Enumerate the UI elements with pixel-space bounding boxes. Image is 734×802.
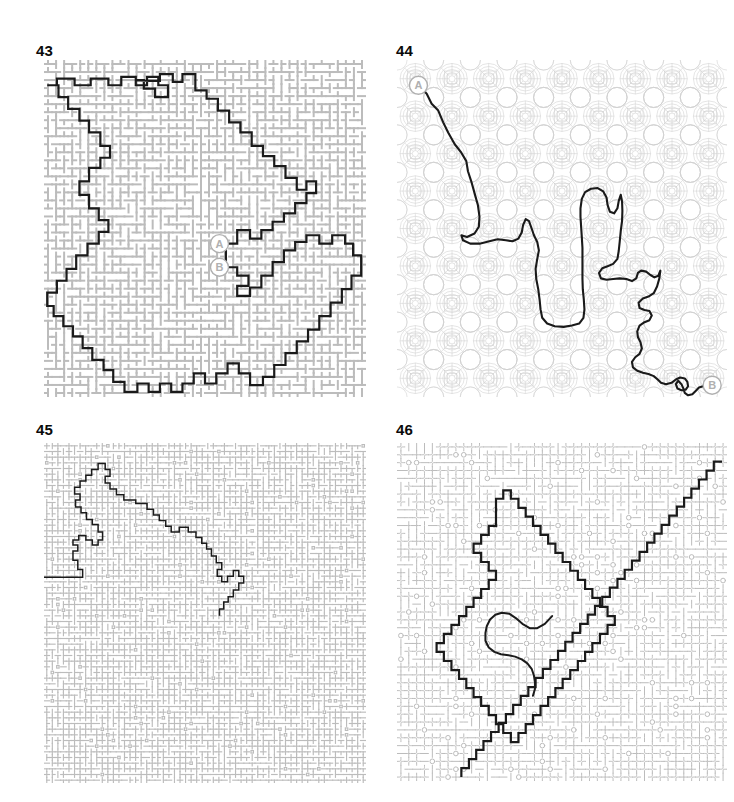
maze-panel-45: 45: [0, 410, 380, 802]
maze-marker-b: B: [703, 376, 721, 394]
figure-label-45: 45: [36, 422, 53, 437]
maze-graphic-46: [397, 443, 727, 781]
maze-panel-43: 43 AB: [0, 0, 380, 410]
maze-graphic-44: AB: [397, 60, 727, 397]
maze-graphic-45: [44, 443, 366, 783]
maze-panel-46: 46: [380, 410, 734, 802]
maze-graphic-43: AB: [44, 60, 366, 397]
svg-text:B: B: [216, 261, 224, 273]
maze-marker-b: B: [210, 258, 228, 276]
svg-text:A: A: [216, 238, 224, 250]
svg-text:A: A: [414, 79, 422, 91]
maze-marker-a: A: [409, 76, 427, 94]
figure-label-46: 46: [396, 422, 413, 437]
maze-figure-page: 43 AB 44 AB 45 46: [0, 0, 734, 802]
figure-label-44: 44: [396, 43, 413, 58]
svg-text:B: B: [708, 379, 716, 391]
maze-panel-44: 44 AB: [380, 0, 734, 410]
figure-label-43: 43: [36, 43, 53, 58]
maze-marker-a: A: [210, 235, 228, 253]
